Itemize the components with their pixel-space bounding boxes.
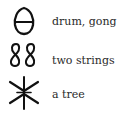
two-strings-icon — [8, 42, 40, 68]
tree-icon — [7, 76, 41, 110]
drum-gong-icon — [10, 4, 38, 36]
entry-label: a tree — [52, 89, 85, 100]
entry-label: two strings — [52, 55, 115, 66]
entry-two-strings: two strings — [0, 40, 123, 70]
entry-label: drum, gong — [52, 16, 117, 27]
entry-drum-gong: drum, gong — [0, 0, 123, 40]
entry-tree: a tree — [0, 72, 123, 112]
